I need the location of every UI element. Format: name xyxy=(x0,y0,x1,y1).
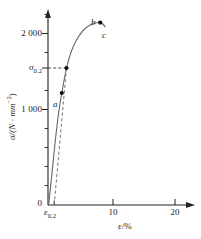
x-axis-tick-label-10: 10 xyxy=(104,208,122,217)
x-axis-epsilon-02-label: ε0.2 xyxy=(44,208,70,217)
x-axis-title: ε/% xyxy=(100,222,150,231)
marker-point-sigma02 xyxy=(64,66,68,70)
y-axis-title-main: σ/(N · mm xyxy=(7,103,17,140)
curve-point-label-c: c xyxy=(102,31,106,40)
sigma-subscript: 0.2 xyxy=(34,67,42,74)
origin-label: 0 xyxy=(30,199,42,208)
stress-strain-chart: 2 000 1 000 σ0.2 0 10 20 ε0.2 ε/% σ/(N ·… xyxy=(0,0,201,239)
y-axis-title-close: ) xyxy=(7,93,17,96)
y-axis-sigma-02-label: σ0.2 xyxy=(0,63,42,72)
y-axis-title-exponent: −2 xyxy=(5,96,12,103)
epsilon-subscript: 0.2 xyxy=(48,212,56,219)
y-axis-tick-label-2000: 2 000 xyxy=(0,29,42,38)
x-axis-title-units: /% xyxy=(122,221,132,231)
curve-point-label-b: b xyxy=(91,18,96,27)
y-axis xyxy=(45,9,51,205)
stress-strain-curve xyxy=(49,23,106,205)
curve-point-label-a: a xyxy=(53,100,58,109)
y-axis-major-ticks xyxy=(42,34,48,110)
marker-point-c xyxy=(98,21,102,25)
marker-point-a xyxy=(60,91,64,95)
x-axis-ticks xyxy=(54,199,175,205)
y-axis-title: σ/(N · mm−2) xyxy=(8,69,17,165)
x-axis-tick-label-20: 20 xyxy=(166,208,184,217)
data-point-markers xyxy=(60,21,103,96)
